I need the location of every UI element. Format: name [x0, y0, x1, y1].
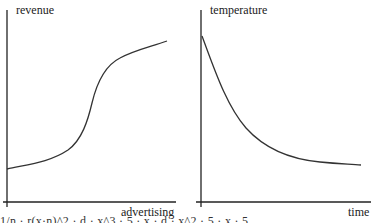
right-x-axis-label: time	[348, 206, 369, 218]
revenue-curve	[7, 41, 167, 169]
cut-off-formula-text: 1/n · r(x·n)^2 · d · x^3 · 5 · x · d · x…	[0, 215, 248, 223]
temperature-curve	[202, 36, 361, 165]
right-y-axis-label: temperature	[210, 4, 267, 16]
left-y-axis-label: revenue	[16, 4, 54, 16]
charts-canvas	[0, 0, 371, 223]
